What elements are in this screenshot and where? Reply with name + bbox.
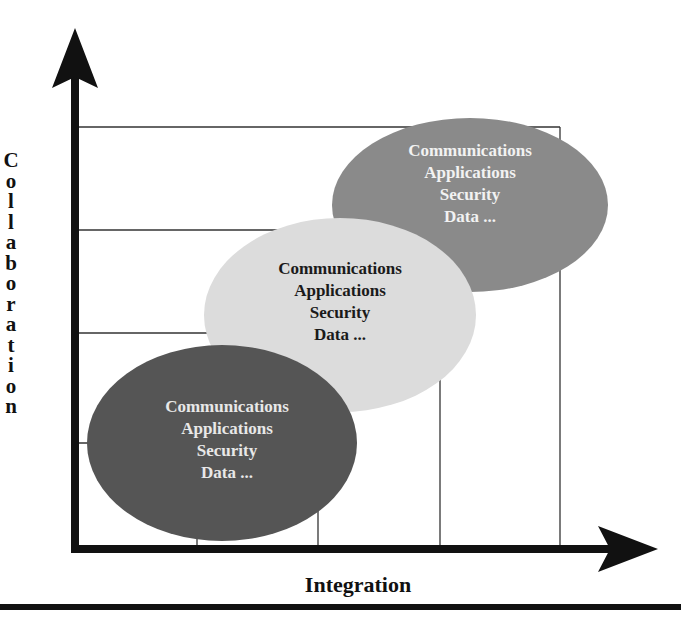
y-label-letter: o [0,376,22,397]
y-label-letter: r [0,294,22,315]
bubble-line: Communications [240,258,440,280]
y-axis [52,28,98,553]
y-label-letter: a [0,314,22,335]
bubble-line: Applications [370,162,570,184]
y-label-letter: i [0,355,22,376]
y-label-letter: l [0,191,22,212]
bubble-line: Data ... [127,462,327,484]
bubble-line: Security [127,440,327,462]
x-axis-label: Integration [258,572,458,598]
y-label-letter: b [0,253,22,274]
bubble-line: Applications [127,418,327,440]
y-axis-label: C o l l a b o r a t i o n [0,150,22,417]
bubble-middle-text: Communications Applications Security Dat… [240,258,440,346]
bubble-line: Communications [370,140,570,162]
x-axis [71,526,658,572]
bubble-line: Data ... [370,206,570,228]
bubble-line: Applications [240,280,440,302]
bubble-line: Communications [127,396,327,418]
bubble-line: Security [240,302,440,324]
y-label-letter: o [0,171,22,192]
bubble-top-right-text: Communications Applications Security Dat… [370,140,570,228]
y-label-letter: n [0,396,22,417]
y-label-letter: a [0,232,22,253]
y-label-letter: C [0,150,22,171]
y-label-letter: l [0,212,22,233]
y-label-letter: o [0,273,22,294]
bubble-line: Security [370,184,570,206]
bottom-rule-divider [0,604,681,610]
y-label-letter: t [0,335,22,356]
bubble-bottom-left-text: Communications Applications Security Dat… [127,396,327,484]
bubble-line: Data ... [240,324,440,346]
